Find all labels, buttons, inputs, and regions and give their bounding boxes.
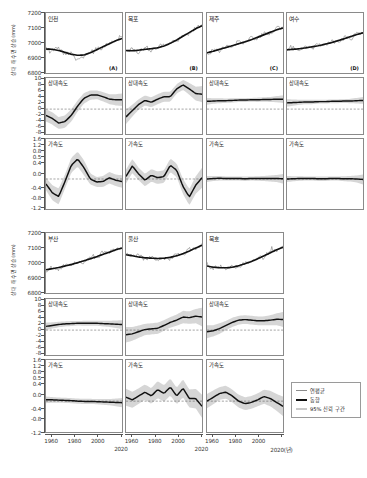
x-tick-label-2020-col1: 2020: [114, 446, 127, 452]
subpanel-title-acceleration-울산: 가속도: [128, 361, 143, 369]
legend-item-annual-mean: 연평균: [296, 386, 356, 395]
y-tick-acc-m12-top: -1.2: [18, 205, 41, 211]
subpanel-title-velocity-제주: 상대속도: [209, 79, 229, 87]
legend-swatch-annual-mean: [296, 390, 307, 391]
subpanel-title-acceleration-인천: 가속도: [48, 140, 63, 148]
y-tick-6900-bottom: 6900: [18, 275, 41, 281]
panel-acceleration-목포: [125, 138, 203, 210]
x-tick-label-1980-col3: 1980: [228, 438, 241, 444]
y-tick-7200-bottom: 7200: [18, 230, 41, 236]
x-tick-label-2020-col2: 2020: [195, 446, 208, 452]
x-tick-mark-1960-col1: [51, 434, 52, 437]
panel-acceleration-울산: [125, 359, 203, 433]
panel-acceleration-여수: [286, 138, 364, 210]
x-tick-mark-1980-col1: [74, 434, 75, 437]
legend-label-trend: 동향: [310, 396, 320, 403]
y-tick-7000-bottom: 7000: [18, 260, 41, 266]
x-axis-line-col2: [125, 434, 203, 435]
x-axis-line-col1: [45, 434, 123, 435]
y-tick-7100-bottom: 7100: [18, 245, 41, 251]
x-tick-label-1960-col3: 1960: [205, 438, 218, 444]
panel-label-C: (C): [270, 65, 278, 71]
panel-acceleration-인천: [45, 138, 123, 210]
subpanel-title-acceleration-목포: 가속도: [128, 140, 143, 148]
subpanel-title-acceleration-부산: 가속도: [48, 361, 63, 369]
legend-swatch-ci: [296, 408, 307, 410]
subpanel-title-velocity-여수: 상대속도: [289, 79, 309, 87]
legend-item-trend: 동향: [296, 395, 356, 404]
x-tick-mark-2020-col3: [281, 434, 282, 437]
y-tick-acc-04-bottom: 0.4: [18, 381, 41, 387]
subpanel-title-velocity-묵호: 상대속도: [209, 300, 229, 308]
x-tick-label-2000-col2: 2000: [171, 438, 184, 444]
y-tick-acc-m04-bottom: -0.4: [18, 406, 41, 412]
legend-label-ci: 95% 신뢰 구간: [310, 405, 345, 412]
y-tick-7000-top: 7000: [18, 40, 41, 46]
x-tick-label-2000-col1: 2000: [91, 438, 104, 444]
x-tick-label-1960-col1: 1960: [44, 438, 57, 444]
subpanel-title-velocity-부산: 상대속도: [48, 300, 68, 308]
panel-label-D: (D): [350, 65, 359, 71]
x-axis-line-col3: [206, 434, 284, 435]
x-tick-mark-2000-col1: [97, 434, 98, 437]
x-tick-mark-2000-col3: [258, 434, 259, 437]
y-tick-acc-m08-bottom: -0.8: [18, 416, 41, 422]
y-tick-acc-m12-bottom: -1.2: [18, 430, 41, 436]
legend: 연평균 동향 95% 신뢰 구간: [291, 382, 361, 418]
panel-title-목포: 목포: [128, 14, 138, 23]
x-tick-mark-2000-col2: [178, 434, 179, 437]
legend-item-ci: 95% 신뢰 구간: [296, 404, 356, 413]
x-tick-mark-1960-col3: [212, 434, 213, 437]
panel-acceleration-부산: [45, 359, 123, 433]
panel-title-울산: 울산: [128, 234, 138, 243]
x-tick-mark-2020-col2: [201, 434, 202, 437]
subpanel-title-velocity-인천: 상대속도: [48, 79, 68, 87]
y-tick-acc-m04-top: -0.4: [18, 185, 41, 191]
subpanel-title-acceleration-묵호: 가속도: [209, 361, 224, 369]
y-tick-acc-00-bottom: 0.0: [18, 392, 41, 398]
panel-acceleration-제주: [206, 138, 284, 210]
y-axis-label-bottom: 상대 해수면 상승(mm): [9, 244, 16, 296]
x-tick-mark-2020-col1: [121, 434, 122, 437]
x-tick-label-1980-col2: 1980: [148, 438, 161, 444]
subpanel-title-velocity-목포: 상대속도: [128, 79, 148, 87]
x-tick-mark-1980-col3: [235, 434, 236, 437]
y-tick-7100-top: 7100: [18, 25, 41, 31]
x-tick-label-1960-col2: 1960: [125, 438, 138, 444]
panel-title-여수: 여수: [289, 14, 299, 23]
subpanel-title-acceleration-제주: 가속도: [209, 140, 224, 148]
panel-acceleration-묵호: [206, 359, 284, 433]
y-tick-acc-m08-top: -0.8: [18, 195, 41, 201]
panel-label-A: (A): [109, 65, 117, 71]
figure-root: 상대 해수면 상승(mm) 7200 7100 7000 6900 6800 1…: [0, 0, 367, 478]
x-tick-mark-1980-col2: [155, 434, 156, 437]
y-tick-6900-top: 6900: [18, 55, 41, 61]
x-tick-label-1980-col1: 1980: [68, 438, 81, 444]
y-tick-vel-m8-bottom: -8: [20, 350, 41, 356]
subpanel-title-velocity-울산: 상대속도: [128, 300, 148, 308]
y-axis-label-top: 상대 해수면 상승(mm): [9, 24, 16, 76]
legend-label-annual-mean: 연평균: [310, 387, 325, 394]
y-tick-vel-m8-top: -8: [20, 129, 41, 135]
panel-label-B: (B): [189, 65, 197, 71]
y-tick-acc-04-top: 0.4: [18, 160, 41, 166]
panel-title-부산: 부산: [48, 234, 58, 243]
panel-title-묵호: 묵호: [209, 234, 219, 243]
x-tick-mark-1960-col2: [131, 434, 132, 437]
y-tick-7200-top: 7200: [18, 10, 41, 16]
legend-swatch-trend: [296, 399, 307, 401]
x-tick-label-2000-col3: 2000: [252, 438, 265, 444]
subpanel-title-acceleration-여수: 가속도: [289, 140, 304, 148]
x-tick-label-2020-col3: 2020(년): [267, 446, 295, 454]
panel-title-제주: 제주: [209, 14, 219, 23]
panel-title-인천: 인천: [48, 14, 58, 23]
y-tick-acc-00-top: 0.0: [18, 171, 41, 177]
